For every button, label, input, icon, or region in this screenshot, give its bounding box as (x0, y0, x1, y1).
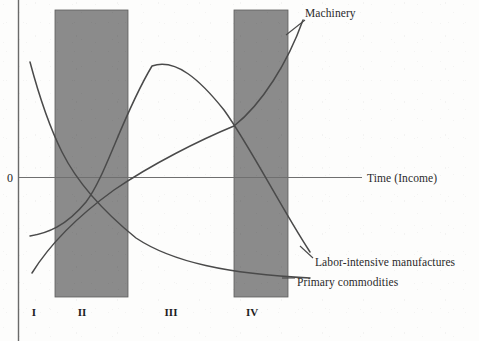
leader-machinery (286, 20, 305, 35)
label-primary-commodities: Primary commodities (297, 276, 399, 289)
label-time-income: Time (Income) (367, 172, 437, 185)
label-labor-intensive: Labor-intensive manufactures (315, 256, 456, 268)
phase-band-iv (234, 10, 288, 297)
product-cycle-figure: 0 Machinery Time (Income) Labor-intensiv… (0, 0, 479, 341)
phase-band-ii (55, 10, 128, 297)
phase-label-iv: IV (246, 306, 258, 318)
origin-label: 0 (7, 171, 13, 185)
phase-label-i: I (32, 306, 36, 318)
phase-label-ii: II (78, 306, 87, 318)
figure-canvas: 0 Machinery Time (Income) Labor-intensiv… (0, 0, 479, 341)
label-machinery: Machinery (305, 7, 356, 20)
phase-label-iii: III (165, 306, 178, 318)
